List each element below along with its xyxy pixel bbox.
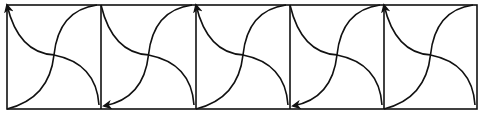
tiles-group (7, 5, 477, 109)
tile-3-arc-b (196, 5, 286, 109)
tile-4-arc-b (293, 5, 380, 106)
tile-5-arc-a (384, 5, 475, 105)
tile-1-arc-b (7, 5, 97, 109)
tile-2-arc-a (101, 5, 194, 105)
tile-2-arc-b (104, 5, 192, 106)
tile-1-arc-a (7, 5, 99, 105)
tile-5-arc-b (384, 5, 473, 109)
tile-4-arc-a (290, 5, 382, 105)
tile-3-arc-a (196, 5, 288, 105)
tiling-diagram (0, 0, 483, 115)
